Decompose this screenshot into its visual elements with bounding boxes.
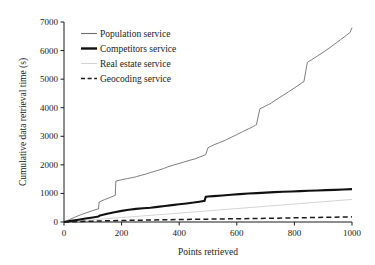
y-axis-label: Cumulative data retrieval time (s) (18, 58, 29, 186)
y-tick-label: 0 (54, 217, 59, 227)
y-tick-label: 5000 (40, 74, 59, 84)
y-tick-label: 4000 (40, 103, 59, 113)
y-tick-label: 7000 (40, 17, 59, 27)
legend-label-geocoding: Geocoding service (100, 74, 171, 84)
chart-legend: Population service Competitors service R… (81, 29, 176, 84)
x-axis-tick-labels: 02004006008001000 (62, 228, 362, 238)
figure-container: 01000200030004000500060007000 0200400600… (0, 0, 375, 265)
x-tick-label: 200 (115, 228, 129, 238)
series-line-geocoding-service (64, 217, 352, 222)
legend-item-population: Population service (81, 29, 170, 39)
legend-label-competitors: Competitors service (100, 44, 176, 54)
x-tick-label: 800 (288, 228, 302, 238)
legend-label-real-estate: Real estate service (100, 59, 171, 69)
y-tick-label: 2000 (40, 160, 59, 170)
x-tick-label: 0 (62, 228, 67, 238)
x-tick-label: 400 (172, 228, 186, 238)
x-axis-ticks (64, 222, 352, 226)
line-chart: 01000200030004000500060007000 0200400600… (0, 0, 375, 265)
y-tick-label: 6000 (40, 46, 59, 56)
y-axis-ticks (61, 22, 65, 222)
legend-item-competitors: Competitors service (81, 44, 176, 54)
y-tick-label: 3000 (40, 131, 59, 141)
x-tick-label: 600 (230, 228, 244, 238)
x-axis-label: Points retrieved (178, 247, 238, 257)
y-axis-tick-labels: 01000200030004000500060007000 (40, 17, 59, 227)
legend-item-geocoding: Geocoding service (81, 74, 171, 84)
x-tick-label: 1000 (343, 228, 362, 238)
series-line-population-service (64, 28, 352, 222)
legend-label-population: Population service (100, 29, 170, 39)
series-line-competitors-service (64, 189, 352, 222)
legend-item-real-estate: Real estate service (81, 59, 171, 69)
y-tick-label: 1000 (40, 188, 59, 198)
